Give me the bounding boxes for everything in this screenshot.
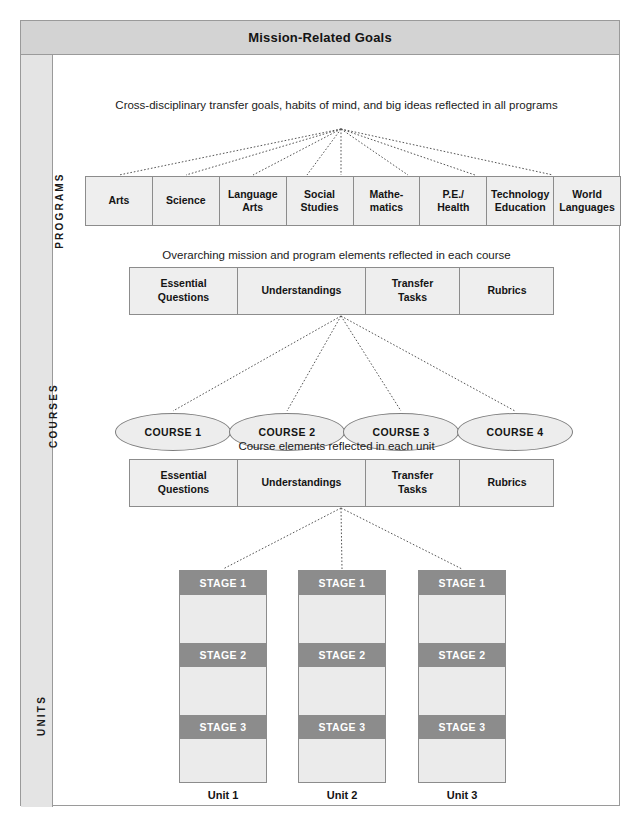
unit-element-essential-questions[interactable]: Essential Questions xyxy=(130,460,238,506)
element-label-line1: Rubrics xyxy=(487,476,526,488)
element-label-line1: Essential xyxy=(160,469,206,481)
program-label-line2: Health xyxy=(437,201,469,213)
connector-course-1 xyxy=(287,316,341,411)
connector-course-0 xyxy=(173,316,341,411)
course-element-essential-questions[interactable]: Essential Questions xyxy=(130,268,238,314)
caption-programs: Cross-disciplinary transfer goals, habit… xyxy=(53,99,620,111)
program-label-line2: matics xyxy=(370,201,403,213)
program-label-line1: Language xyxy=(228,188,278,200)
course-oval-label: COURSE 2 xyxy=(259,426,316,438)
program-cell-language-arts[interactable]: Language Arts xyxy=(220,177,287,225)
connector-unit-0 xyxy=(223,508,341,569)
program-cell-world-languages[interactable]: World Languages xyxy=(554,177,620,225)
stage-bar-3[interactable]: STAGE 3 xyxy=(419,715,505,739)
programs-strip: Arts Science Language Arts Socia xyxy=(85,176,621,226)
program-cell-mathematics[interactable]: Mathe- matics xyxy=(354,177,421,225)
program-label-line2: Arts xyxy=(242,201,263,213)
program-label-line2: Languages xyxy=(559,201,614,213)
element-label-line1: Understandings xyxy=(262,284,342,296)
stage-bar-3[interactable]: STAGE 3 xyxy=(180,715,266,739)
stage-label: STAGE 1 xyxy=(319,577,366,589)
stage-bar-2[interactable]: STAGE 2 xyxy=(299,643,385,667)
program-label-line2: Studies xyxy=(301,201,339,213)
unit-column-1[interactable]: STAGE 1 STAGE 2 STAGE 3 xyxy=(179,570,267,783)
element-label-line1: Transfer xyxy=(392,277,433,289)
program-cell-science[interactable]: Science xyxy=(153,177,220,225)
connector-program-2 xyxy=(253,129,341,175)
unit-label-1: Unit 1 xyxy=(179,789,267,801)
program-label-line2: Education xyxy=(495,201,546,213)
section-rail: PROGRAMS COURSES UNITS xyxy=(21,55,53,807)
program-label-line1: World xyxy=(572,188,602,200)
program-label-line1: Technology xyxy=(491,188,549,200)
stage-bar-2[interactable]: STAGE 2 xyxy=(419,643,505,667)
connector-program-5 xyxy=(341,129,408,175)
unit-element-understandings[interactable]: Understandings xyxy=(238,460,366,506)
stage-label: STAGE 3 xyxy=(200,721,247,733)
rail-label-units: UNITS xyxy=(21,710,52,721)
stage-label: STAGE 3 xyxy=(319,721,366,733)
connector-program-6 xyxy=(341,129,475,175)
connector-program-3 xyxy=(307,129,341,175)
program-label-line1: Social xyxy=(304,188,335,200)
course-element-understandings[interactable]: Understandings xyxy=(238,268,366,314)
page-title: Mission-Related Goals xyxy=(248,30,392,45)
diagram-canvas: Cross-disciplinary transfer goals, habit… xyxy=(53,55,620,807)
diagram-root: Mission-Related Goals PROGRAMS COURSES U… xyxy=(0,0,640,819)
element-label-line2: Questions xyxy=(158,291,209,303)
connector-unit-1 xyxy=(341,508,342,569)
course-oval-label: COURSE 3 xyxy=(373,426,430,438)
connector-program-1 xyxy=(186,129,341,175)
program-cell-arts[interactable]: Arts xyxy=(86,177,153,225)
course-oval-label: COURSE 1 xyxy=(145,426,202,438)
course-element-transfer-tasks[interactable]: Transfer Tasks xyxy=(366,268,460,314)
element-label-line1: Understandings xyxy=(262,476,342,488)
connector-course-2 xyxy=(341,316,401,411)
rail-label-courses: COURSES xyxy=(21,410,52,421)
caption-courses: Overarching mission and program elements… xyxy=(53,249,620,261)
rail-label-units-text: UNITS xyxy=(36,695,47,736)
unit-elements-table: Essential Questions Understandings Trans… xyxy=(129,459,554,507)
connector-course-3 xyxy=(341,316,515,411)
element-label-line2: Tasks xyxy=(398,291,427,303)
diagram-title-bar: Mission-Related Goals xyxy=(21,21,619,55)
stage-label: STAGE 3 xyxy=(439,721,486,733)
element-label-line1: Rubrics xyxy=(487,284,526,296)
unit-column-2[interactable]: STAGE 1 STAGE 2 STAGE 3 xyxy=(298,570,386,783)
program-cell-social-studies[interactable]: Social Studies xyxy=(287,177,354,225)
stage-bar-1[interactable]: STAGE 1 xyxy=(299,571,385,595)
stage-label: STAGE 2 xyxy=(439,649,486,661)
stage-label: STAGE 1 xyxy=(439,577,486,589)
program-label-line1: Arts xyxy=(108,194,129,206)
program-label-line1: Science xyxy=(166,194,206,206)
stage-bar-2[interactable]: STAGE 2 xyxy=(180,643,266,667)
unit-element-transfer-tasks[interactable]: Transfer Tasks xyxy=(366,460,460,506)
connector-unit-2 xyxy=(341,508,462,569)
stage-label: STAGE 1 xyxy=(200,577,247,589)
course-oval-label: COURSE 4 xyxy=(487,426,544,438)
program-cell-technology-education[interactable]: Technology Education xyxy=(487,177,554,225)
stage-bar-1[interactable]: STAGE 1 xyxy=(180,571,266,595)
stage-bar-3[interactable]: STAGE 3 xyxy=(299,715,385,739)
connector-program-0 xyxy=(119,129,341,175)
program-cell-pe-health[interactable]: P.E./ Health xyxy=(420,177,487,225)
diagram-frame: Mission-Related Goals PROGRAMS COURSES U… xyxy=(20,20,620,806)
unit-label-2: Unit 2 xyxy=(298,789,386,801)
course-element-rubrics[interactable]: Rubrics xyxy=(460,268,554,314)
element-label-line2: Tasks xyxy=(398,483,427,495)
course-elements-table: Essential Questions Understandings Trans… xyxy=(129,267,554,315)
element-label-line1: Transfer xyxy=(392,469,433,481)
element-label-line2: Questions xyxy=(158,483,209,495)
stage-label: STAGE 2 xyxy=(200,649,247,661)
program-label-line1: Mathe- xyxy=(370,188,404,200)
program-label-line1: P.E./ xyxy=(443,188,464,200)
unit-label-3: Unit 3 xyxy=(418,789,506,801)
unit-column-3[interactable]: STAGE 1 STAGE 2 STAGE 3 xyxy=(418,570,506,783)
element-label-line1: Essential xyxy=(160,277,206,289)
connector-program-7 xyxy=(341,129,553,175)
caption-units: Course elements reflected in each unit xyxy=(53,440,620,452)
unit-element-rubrics[interactable]: Rubrics xyxy=(460,460,554,506)
stage-label: STAGE 2 xyxy=(319,649,366,661)
rail-label-programs: PROGRAMS xyxy=(21,205,52,216)
stage-bar-1[interactable]: STAGE 1 xyxy=(419,571,505,595)
